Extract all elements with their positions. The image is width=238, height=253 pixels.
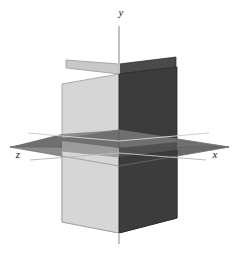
axis-label-z: z — [15, 148, 21, 160]
vertical-plane-left-light-lower — [62, 151, 119, 233]
axis-label-y: y — [118, 6, 124, 18]
axis-label-x: x — [212, 148, 218, 160]
vertical-plane-right-dark-lower — [119, 150, 177, 233]
coordinate-planes-figure: y x z — [0, 0, 238, 253]
back-plane-left-sliver — [66, 60, 119, 74]
figure-canvas: y x z — [0, 0, 238, 253]
